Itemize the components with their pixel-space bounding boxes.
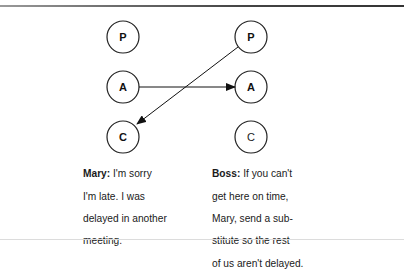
left-p-label: P	[119, 31, 126, 43]
boss-line-3: Mary, send a sub-	[212, 213, 322, 224]
mary-speaker: Mary:	[83, 168, 110, 179]
mary-line-4: meeting.	[83, 235, 193, 246]
mary-line-1: I'm sorry	[110, 168, 152, 179]
transaction-diagram: P A C P A C	[0, 0, 404, 160]
boss-caption: Boss: If you can't get here on time, Mar…	[212, 157, 322, 273]
right-a-label: A	[247, 81, 255, 93]
boss-line-2: get here on time,	[212, 191, 322, 202]
boss-line-4: stitute so the rest	[212, 235, 322, 246]
boss-line-1: If you can't	[240, 168, 292, 179]
mary-line-3: delayed in another	[83, 213, 193, 224]
left-a-label: A	[119, 81, 127, 93]
boss-speaker: Boss:	[212, 168, 240, 179]
right-ego-state-c: C	[235, 121, 267, 153]
right-p-label: P	[247, 31, 254, 43]
right-ego-state-a: A	[235, 71, 267, 103]
left-ego-state-a: A	[107, 71, 139, 103]
bottom-rule	[0, 239, 404, 240]
arrow-right-p-to-left-c	[137, 47, 238, 124]
left-ego-state-c: C	[107, 121, 139, 153]
left-ego-state-p: P	[107, 21, 139, 53]
right-c-label: C	[247, 131, 255, 143]
mary-line-2: I'm late. I was	[83, 191, 193, 202]
boss-line-5: of us aren't delayed.	[212, 258, 322, 269]
left-c-label: C	[119, 131, 127, 143]
right-ego-state-p: P	[235, 21, 267, 53]
mary-caption: Mary: I'm sorry I'm late. I was delayed …	[83, 157, 193, 258]
